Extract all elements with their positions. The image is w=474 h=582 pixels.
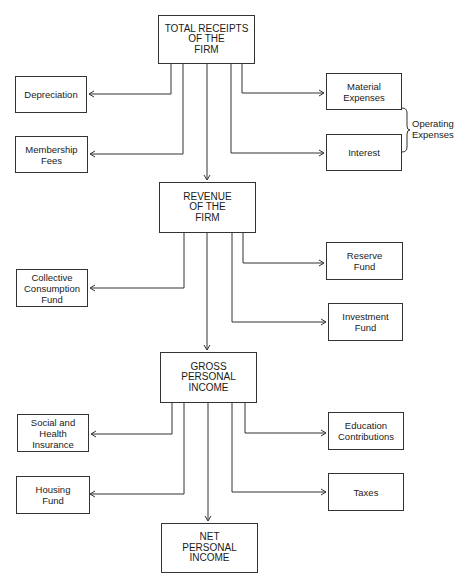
arrow-to-material-expenses	[242, 63, 324, 93]
node-investment-fund: Investment Fund	[328, 303, 403, 341]
node-interest: Interest	[326, 134, 402, 171]
node-material-expenses: Material Expenses	[326, 73, 402, 110]
node-gross-personal-income: GROSS PERSONAL INCOME	[160, 352, 257, 403]
arrow-to-investment-fund	[232, 232, 326, 322]
arrow-to-interest	[231, 63, 324, 153]
node-education-contributions: Education Contributions	[328, 412, 404, 450]
arrow-to-membership-fees	[90, 63, 183, 154]
node-collective-consumption-fund: Collective Consumption Fund	[16, 269, 88, 307]
node-taxes: Taxes	[328, 473, 404, 511]
arrow-to-education-contributions	[245, 402, 326, 433]
node-net-personal-income: NET PERSONAL INCOME	[161, 523, 258, 573]
node-revenue: REVENUE OF THE FIRM	[159, 182, 256, 233]
arrow-to-reserve-fund	[243, 232, 324, 263]
arrow-to-depreciation	[89, 63, 171, 94]
arrow-to-housing-fund	[90, 402, 184, 494]
node-social-health-insurance: Social and Health Insurance	[17, 414, 89, 452]
node-membership-fees: Membership Fees	[15, 136, 88, 173]
arrow-to-collective-consumption-fund	[90, 232, 184, 288]
node-total-receipts: TOTAL RECEIPTS OF THE FIRM	[158, 15, 255, 64]
node-reserve-fund: Reserve Fund	[326, 242, 403, 280]
node-housing-fund: Housing Fund	[16, 476, 90, 514]
arrow-to-taxes	[232, 402, 326, 492]
node-depreciation: Depreciation	[15, 76, 87, 113]
operating-expenses-label: Operating Expenses	[412, 119, 454, 140]
operating-expenses-brace	[402, 108, 410, 152]
arrow-to-social-health-insurance	[91, 402, 172, 434]
